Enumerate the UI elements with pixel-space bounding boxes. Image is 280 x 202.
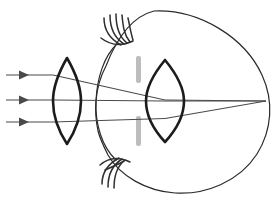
incident-rays — [6, 71, 53, 127]
cornea-curve — [96, 44, 117, 160]
cornea — [96, 44, 117, 160]
eyelash-top-5 — [128, 18, 133, 40]
eyelashes-top — [101, 14, 133, 45]
eyelashes-bottom — [100, 158, 130, 188]
corrective-lens — [53, 58, 81, 144]
iris-top-bar — [136, 56, 141, 83]
mid-ray-2 — [53, 100, 165, 101]
converging-rays — [165, 100, 266, 119]
ray-arrowhead-2 — [19, 96, 29, 105]
corrective-lens-shape — [53, 58, 81, 144]
diagram-canvas — [0, 0, 280, 202]
ray-arrowhead-3 — [19, 118, 29, 127]
ray-arrowhead-1 — [19, 71, 29, 80]
iris-bottom-bar — [136, 116, 141, 146]
eye-optics-diagram: Eye refraction diagram with corrective l… — [0, 0, 280, 202]
mid-ray-3 — [53, 119, 165, 123]
eyelash-bottom-4 — [105, 161, 124, 170]
